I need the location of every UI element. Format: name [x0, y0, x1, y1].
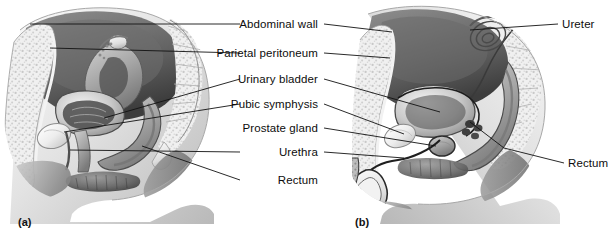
label-urethra: Urethra	[279, 146, 318, 158]
caption-panel-a: (a)	[18, 216, 31, 228]
anatomy-figure: Abdominal wall Parietal peritoneum Urina…	[0, 0, 615, 240]
caption-panel-b: (b)	[355, 216, 369, 228]
label-prostate-gland: Prostate gland	[242, 122, 318, 134]
label-parietal-peritoneum: Parietal peritoneum	[216, 47, 318, 59]
label-ureter: Ureter	[562, 18, 595, 30]
label-rectum-left: Rectum	[278, 174, 318, 186]
label-rectum-right: Rectum	[568, 157, 608, 169]
label-pubic-symphysis: Pubic symphysis	[231, 98, 318, 110]
label-abdominal-wall: Abdominal wall	[239, 18, 318, 30]
figure-illustration-canvas	[0, 0, 615, 240]
label-urinary-bladder: Urinary bladder	[238, 73, 318, 85]
